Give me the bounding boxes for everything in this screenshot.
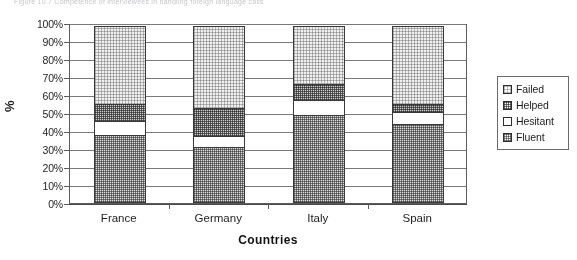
bar-segment-failed[interactable] (94, 26, 146, 105)
y-axis-tick-label: 50% (43, 108, 63, 120)
x-axis-tick (368, 204, 369, 209)
x-axis-tick (268, 204, 269, 209)
x-axis-category-label: Italy (307, 212, 328, 224)
bar-segment-hesitant[interactable] (293, 100, 345, 116)
y-axis-tick-label: 80% (43, 54, 63, 66)
legend-swatch-icon (503, 133, 512, 142)
y-axis-tick-label: 60% (43, 90, 63, 102)
bar-slot (369, 25, 469, 203)
y-axis-tick-label: 30% (43, 144, 63, 156)
legend-item-fluent[interactable]: Fluent (503, 129, 564, 145)
y-axis-tick-label: 70% (43, 72, 63, 84)
bar-segment-helped[interactable] (193, 108, 245, 137)
legend-item-label: Failed (516, 83, 544, 95)
x-axis-category-label: France (101, 212, 137, 224)
legend-swatch-icon (503, 101, 512, 110)
x-axis-category-label: Germany (195, 212, 242, 224)
stacked-bar[interactable] (293, 25, 345, 203)
y-axis-tick-label: 90% (43, 36, 63, 48)
y-axis: 0%10%20%30%40%50%60%70%80%90%100% (0, 24, 69, 204)
legend-item-label: Helped (516, 99, 549, 111)
x-axis-title: Countries (69, 233, 467, 247)
y-axis-tick-label: 0% (48, 198, 63, 210)
legend-item-label: Fluent (516, 131, 545, 143)
figure-caption: Figure 10.7 Competence of interviewees i… (14, 0, 264, 5)
chart-legend: FailedHelpedHesitantFluent (497, 76, 569, 150)
bar-segment-failed[interactable] (392, 26, 444, 105)
x-axis-category-label: Spain (403, 212, 432, 224)
bar-segment-helped[interactable] (293, 84, 345, 100)
x-axis-tick (169, 204, 170, 209)
stacked-bar[interactable] (392, 25, 444, 203)
y-axis-tick-label: 100% (37, 18, 63, 30)
bar-segment-fluent[interactable] (193, 147, 245, 203)
bar-segment-hesitant[interactable] (94, 121, 146, 135)
bar-segment-helped[interactable] (94, 104, 146, 122)
legend-swatch-icon (503, 117, 512, 126)
plot-area (69, 24, 467, 204)
y-axis-tick-label: 20% (43, 162, 63, 174)
legend-swatch-icon (503, 85, 512, 94)
bar-segment-fluent[interactable] (392, 124, 444, 203)
bar-segment-fluent[interactable] (94, 135, 146, 203)
bar-segment-fluent[interactable] (293, 115, 345, 203)
y-axis-tick-label: 10% (43, 180, 63, 192)
legend-item-failed[interactable]: Failed (503, 81, 564, 97)
y-axis-title: % (2, 100, 17, 112)
bar-segment-failed[interactable] (193, 26, 245, 109)
bar-slot (170, 25, 270, 203)
legend-item-helped[interactable]: Helped (503, 97, 564, 113)
legend-item-hesitant[interactable]: Hesitant (503, 113, 564, 129)
stacked-bar[interactable] (193, 25, 245, 203)
bar-slot (70, 25, 170, 203)
bar-slot (269, 25, 369, 203)
figure-page: Figure 10.7 Competence of interviewees i… (0, 0, 577, 260)
stacked-bar[interactable] (94, 25, 146, 203)
bar-segment-failed[interactable] (293, 26, 345, 85)
y-axis-tick-label: 40% (43, 126, 63, 138)
legend-item-label: Hesitant (516, 115, 554, 127)
